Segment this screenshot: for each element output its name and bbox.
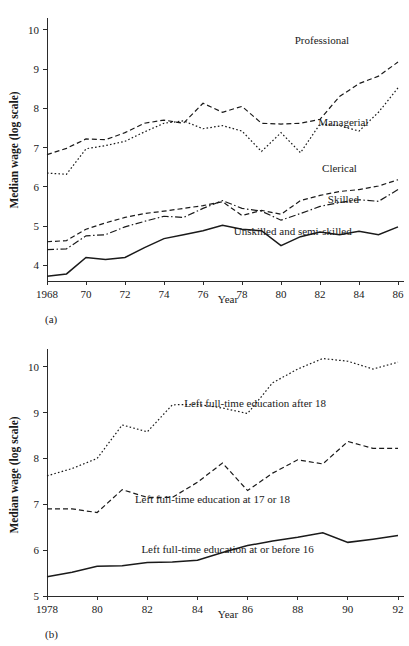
panel-b-y-axis-title: Median wage (log scale) — [8, 416, 21, 533]
x-tick-label: 86 — [242, 603, 254, 615]
panel-b-axes — [47, 349, 404, 596]
x-tick-label: 90 — [342, 603, 354, 615]
x-tick-label: 1968 — [36, 288, 59, 300]
series-label-clerical: Clerical — [322, 162, 357, 174]
x-tick-label: 92 — [393, 603, 404, 615]
x-tick-label: 84 — [354, 288, 366, 300]
y-tick-label: 4 — [34, 259, 40, 271]
y-tick-label: 10 — [28, 24, 40, 36]
y-tick-label: 9 — [34, 63, 40, 75]
x-tick-label: 82 — [142, 603, 153, 615]
series-label-professional: Professional — [295, 34, 349, 46]
y-tick-label: 8 — [34, 452, 40, 464]
x-tick-label: 88 — [292, 603, 304, 615]
x-tick-label: 84 — [192, 603, 204, 615]
panel-a: 45678910 1968707274767880828486 Professi… — [0, 0, 409, 330]
y-tick-label: 6 — [34, 544, 40, 556]
panel-a-svg: 45678910 1968707274767880828486 Professi… — [0, 0, 409, 330]
panel-b-series-labels: Left full-time education after 18Left fu… — [135, 397, 327, 555]
panel-a-axes — [47, 18, 404, 281]
panel-a-caption: (a) — [45, 313, 58, 326]
y-tick-label: 8 — [34, 102, 40, 114]
x-tick-label: 82 — [315, 288, 326, 300]
y-tick-label: 10 — [28, 361, 40, 373]
panel-b-y-tick-group: 5678910 — [28, 361, 47, 602]
x-tick-label: 86 — [393, 288, 405, 300]
y-tick-label: 7 — [34, 142, 40, 154]
panel-a-y-tick-group: 45678910 — [28, 24, 47, 271]
x-tick-label: 80 — [276, 288, 288, 300]
series-label-left-full-time-education-at-or-before-16: Left full-time education at or before 16 — [141, 543, 314, 555]
series-line-left-full-time-education-after-18 — [47, 359, 398, 476]
panel-b-caption: (b) — [45, 628, 58, 641]
series-label-left-full-time-education-after-18: Left full-time education after 18 — [184, 397, 326, 409]
x-tick-label: 78 — [237, 288, 249, 300]
x-tick-label: 70 — [81, 288, 93, 300]
series-line-professional — [47, 62, 398, 155]
x-tick-label: 1978 — [36, 603, 59, 615]
y-tick-label: 6 — [34, 181, 40, 193]
figure-two-panel-line-charts: 45678910 1968707274767880828486 Professi… — [0, 0, 409, 646]
panel-b-x-axis-title: Year — [218, 608, 239, 620]
series-label-managerial: Managerial — [318, 116, 368, 128]
x-tick-label: 72 — [120, 288, 131, 300]
series-label-left-full-time-education-at-17-or-18: Left full-time education at 17 or 18 — [135, 493, 291, 505]
panel-a-y-axis-title: Median wage (log scale) — [8, 91, 21, 208]
x-tick-label: 76 — [198, 288, 210, 300]
y-tick-label: 5 — [34, 590, 40, 602]
x-tick-label: 74 — [159, 288, 171, 300]
panel-a-x-axis-title: Year — [218, 293, 239, 305]
y-tick-label: 5 — [34, 220, 40, 232]
panel-b: 5678910 197880828486889092 Left full-tim… — [0, 330, 409, 646]
series-label-skilled: Skilled — [328, 193, 360, 205]
panel-a-series-labels: ProfessionalManagerialClericalSkilledUns… — [234, 34, 369, 237]
panel-b-svg: 5678910 197880828486889092 Left full-tim… — [0, 330, 409, 646]
series-label-unskilled-and-semi-skilled: Unskilled and semi-skilled — [234, 225, 352, 237]
y-tick-label: 9 — [34, 407, 40, 419]
y-tick-label: 7 — [34, 498, 40, 510]
x-tick-label: 80 — [92, 603, 104, 615]
